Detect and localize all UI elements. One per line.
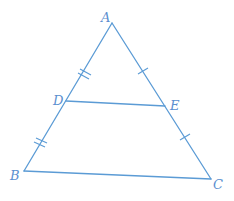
- single-tick-ae: [138, 68, 148, 74]
- segment-de: [66, 101, 165, 106]
- triangle-diagram: [0, 0, 234, 201]
- side-ab: [24, 23, 112, 171]
- label-e: E: [170, 99, 180, 112]
- side-ac: [112, 23, 211, 179]
- label-b: B: [10, 169, 20, 182]
- label-a: A: [101, 11, 110, 24]
- label-d: D: [53, 94, 63, 107]
- side-bc: [24, 171, 211, 179]
- label-c: C: [213, 178, 223, 191]
